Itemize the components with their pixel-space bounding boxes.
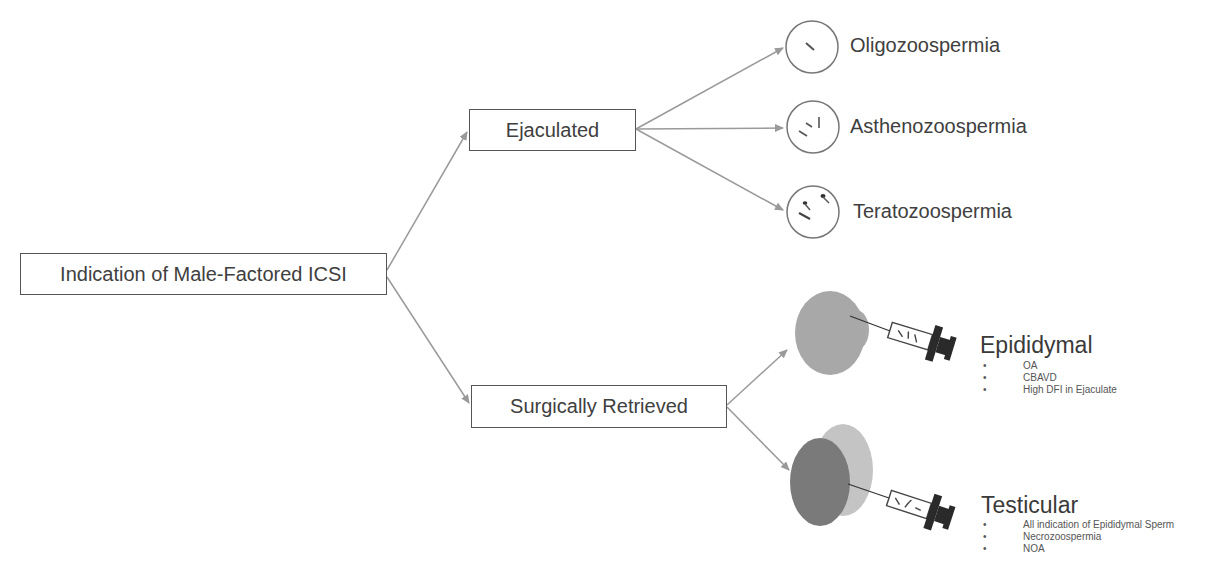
testicular-bullet-list: •All indication of Epididymal Sperm •Nec… xyxy=(983,519,1174,555)
ejaculated-node: Ejaculated xyxy=(469,109,636,151)
root-node-label: Indication of Male-Factored ICSI xyxy=(60,263,347,286)
surgically-retrieved-node-label: Surgically Retrieved xyxy=(510,395,688,418)
teratozoospermia-label: Teratozoospermia xyxy=(853,200,1012,223)
arrow-root-to-ejaculated xyxy=(387,132,467,270)
arrow-ejaculated-to-oligo xyxy=(636,48,783,129)
testis-syringe-icon xyxy=(790,424,957,536)
arrow-surgical-to-epididymal xyxy=(727,350,787,405)
testicular-bullet-item: •NOA xyxy=(983,543,1174,555)
epididymal-bullet-item: •OA xyxy=(983,360,1117,372)
surgically-retrieved-node: Surgically Retrieved xyxy=(471,385,727,428)
arrow-surgical-to-testicular xyxy=(727,407,789,470)
epididymal-bullet-list: •OA •CBAVD •High DFI in Ejaculate xyxy=(983,360,1117,396)
ejaculated-node-label: Ejaculated xyxy=(506,119,599,142)
testicular-heading: Testicular xyxy=(981,492,1078,519)
asthenozoospermia-label: Asthenozoospermia xyxy=(850,115,1027,138)
oligozoospermia-label: Oligozoospermia xyxy=(850,34,1000,57)
arrow-root-to-surgical xyxy=(387,277,469,403)
testicular-bullet-item: •Necrozoospermia xyxy=(983,531,1174,543)
sparse-sperm-circle-icon xyxy=(786,21,838,73)
root-node: Indication of Male-Factored ICSI xyxy=(20,253,387,295)
testicular-bullet-item: •All indication of Epididymal Sperm xyxy=(983,519,1174,531)
abnormal-sperm-circle-icon xyxy=(787,186,839,238)
arrow-ejaculated-to-astheno xyxy=(636,128,783,129)
epididymal-bullet-item: •CBAVD xyxy=(983,372,1117,384)
immotile-sperm-circle-icon xyxy=(787,101,839,153)
arrow-ejaculated-to-terato xyxy=(636,129,783,210)
epididymis-syringe-icon xyxy=(795,291,958,375)
epididymal-bullet-item: •High DFI in Ejaculate xyxy=(983,384,1117,396)
epididymal-heading: Epididymal xyxy=(980,332,1093,359)
